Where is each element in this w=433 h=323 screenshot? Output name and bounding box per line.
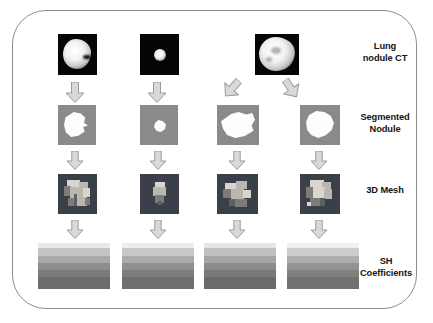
sh-band [122,277,194,289]
sh-band [287,256,359,263]
sh-band [122,256,194,263]
sh-band [204,270,276,277]
arrow-seg-to-mesh-3 [228,151,246,170]
ct-image-2 [140,34,179,75]
sh-band [204,263,276,270]
arrow-ct-to-seg-1 [65,82,85,103]
mesh-image-2 [140,174,179,214]
segmentation-image-3 [217,105,259,145]
arrow-mesh-to-sh-2 [149,220,167,239]
row-label-segmented-nodule-line1: Segmented [353,112,417,124]
sh-band [38,263,110,270]
arrow-seg-to-mesh-2 [149,151,167,170]
sh-coefficients-image-3 [204,243,276,289]
sh-coefficients-image-1 [38,243,110,289]
sh-band [38,270,110,277]
sh-band [287,270,359,277]
sh-band [38,277,110,289]
arrow-mesh-to-sh-1 [66,220,84,239]
row-label-sh-coefficients-line2: Coefficients [351,268,421,280]
row-label-3d-mesh: 3D Mesh [353,185,417,197]
mesh-image-4 [300,174,340,214]
row-label-sh-coefficients-line1: SH [351,256,421,268]
ct-image-1 [58,34,97,75]
segmentation-image-2 [140,105,178,145]
sh-band [122,263,194,270]
segmentation-image-4 [300,105,340,145]
row-label-segmented-nodule-line2: Nodule [353,124,417,136]
sh-band [122,248,194,255]
sh-band [287,277,359,289]
sh-coefficients-image-4 [287,243,359,289]
arrow-seg-to-mesh-1 [66,151,84,170]
sh-band [287,248,359,255]
sh-band [204,277,276,289]
ct-image-3 [255,34,299,75]
arrow-mesh-to-sh-4 [310,220,328,239]
row-label-lung-nodule-ct: Lung nodule CT [353,41,417,64]
sh-band [204,256,276,263]
row-label-sh-coefficients: SH Coefficients [351,256,421,279]
sh-band [287,263,359,270]
mesh-image-1 [58,174,97,214]
arrow-ct-to-seg-2 [147,82,167,103]
figure-root: Lung nodule CT Segmented Nodule 3D Mesh … [0,0,433,323]
sh-band [122,270,194,277]
sh-coefficients-image-2 [122,243,194,289]
sh-band [204,248,276,255]
row-label-lung-nodule-ct-line2: nodule CT [353,53,417,65]
row-label-3d-mesh-line1: 3D Mesh [353,185,417,197]
sh-band [38,248,110,255]
mesh-image-3 [217,174,258,214]
row-label-lung-nodule-ct-line1: Lung [353,41,417,53]
segmentation-image-1 [58,105,96,145]
arrow-mesh-to-sh-3 [228,220,246,239]
sh-band [38,256,110,263]
row-label-segmented-nodule: Segmented Nodule [353,112,417,135]
arrow-seg-to-mesh-4 [310,151,328,170]
